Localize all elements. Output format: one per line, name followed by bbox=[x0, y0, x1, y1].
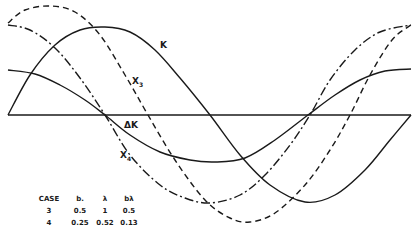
col-b: b. bbox=[66, 193, 94, 205]
label-x3: X3 bbox=[132, 76, 143, 88]
cell: 0.5 bbox=[66, 205, 94, 217]
label-x4: X4 bbox=[120, 150, 131, 162]
table-header-row: CASE b. λ bλ bbox=[32, 193, 142, 205]
col-b-lambda: bλ bbox=[116, 193, 142, 205]
parameter-table: CASE b. λ bλ 3 0.5 1 0.5 4 0.25 0.52 0.1… bbox=[32, 193, 142, 229]
table-row: 3 0.5 1 0.5 bbox=[32, 205, 142, 217]
cell: 4 bbox=[32, 217, 66, 229]
table-row: 4 0.25 0.52 0.13 bbox=[32, 217, 142, 229]
cell: 3 bbox=[32, 205, 66, 217]
cell: 1 bbox=[94, 205, 116, 217]
cell: 0.25 bbox=[66, 217, 94, 229]
col-case: CASE bbox=[32, 193, 66, 205]
col-lambda: λ bbox=[94, 193, 116, 205]
label-k: K bbox=[160, 40, 168, 50]
cell: 0.52 bbox=[94, 217, 116, 229]
cell: 0.13 bbox=[116, 217, 142, 229]
cell: 0.5 bbox=[116, 205, 142, 217]
label-delta-k: ΔK bbox=[124, 120, 139, 130]
